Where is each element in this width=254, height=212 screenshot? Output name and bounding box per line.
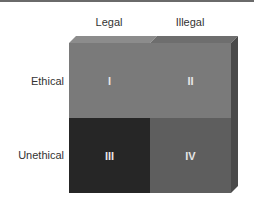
column-label-illegal: Illegal [150, 16, 230, 28]
box-top-face [69, 36, 238, 43]
top-border [0, 0, 254, 2]
quadrant-i: I [69, 43, 150, 118]
quadrant-iv: IV [150, 118, 231, 193]
quadrant-ii: II [150, 43, 231, 118]
quadrant-label: I [108, 75, 111, 87]
top-face-left [69, 36, 157, 43]
quadrant-label: IV [185, 150, 195, 162]
quadrant-label: III [105, 150, 114, 162]
quadrant-iii: III [69, 118, 150, 193]
right-face-polygon [231, 36, 238, 193]
quadrant-label: II [187, 75, 193, 87]
top-face-right [150, 36, 238, 43]
column-label-legal: Legal [69, 16, 149, 28]
row-label-unethical: Unethical [0, 149, 64, 161]
box-right-face [231, 36, 238, 193]
row-label-ethical: Ethical [0, 75, 64, 87]
